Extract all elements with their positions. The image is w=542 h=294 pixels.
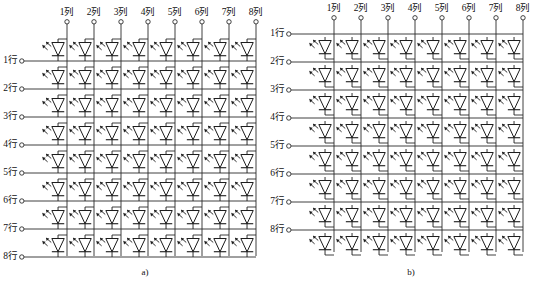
led-triangle-2-4 xyxy=(400,69,412,82)
led-triangle-2-2 xyxy=(79,71,91,84)
row-terminal-6[interactable] xyxy=(20,199,24,203)
row-terminal-2[interactable] xyxy=(20,87,24,91)
led-symbol-4-6 xyxy=(177,123,199,145)
column-terminal-8[interactable] xyxy=(254,20,258,24)
column-terminal-6[interactable] xyxy=(200,20,204,24)
row-terminal-5[interactable] xyxy=(20,171,24,175)
led-symbol-3-3 xyxy=(96,95,118,117)
led-triangle-6-2 xyxy=(79,183,91,196)
row-terminal-4[interactable] xyxy=(287,116,291,120)
row-terminal-1[interactable] xyxy=(287,32,291,36)
led-symbol-7-7 xyxy=(471,205,493,227)
led-symbol-1-5 xyxy=(417,37,439,59)
led-triangle-7-8 xyxy=(508,209,520,222)
column-terminal-3[interactable] xyxy=(386,16,390,20)
row-terminal-3[interactable] xyxy=(287,88,291,92)
led-symbol-3-5 xyxy=(417,93,439,115)
led-triangle-2-8 xyxy=(508,69,520,82)
column-terminal-1[interactable] xyxy=(65,20,69,24)
led-triangle-8-7 xyxy=(214,239,226,252)
led-symbol-2-2 xyxy=(69,67,91,89)
row-terminal-5[interactable] xyxy=(287,144,291,148)
led-symbol-4-8 xyxy=(231,123,253,145)
led-triangle-5-4 xyxy=(133,155,145,168)
led-triangle-8-6 xyxy=(454,237,466,250)
column-terminal-2[interactable] xyxy=(359,16,363,20)
column-terminal-3[interactable] xyxy=(119,20,123,24)
led-symbol-6-6 xyxy=(444,177,466,199)
column-terminal-4[interactable] xyxy=(413,16,417,20)
led-symbol-7-5 xyxy=(150,207,172,229)
led-symbol-4-2 xyxy=(69,123,91,145)
led-symbol-8-8 xyxy=(498,233,520,255)
led-triangle-6-8 xyxy=(241,183,253,196)
row-terminal-6[interactable] xyxy=(287,172,291,176)
led-triangle-3-8 xyxy=(508,97,520,110)
row-terminal-8[interactable] xyxy=(287,228,291,232)
row-terminal-7[interactable] xyxy=(20,227,24,231)
led-triangle-3-5 xyxy=(160,99,172,112)
row-terminal-3[interactable] xyxy=(20,115,24,119)
row-terminal-4[interactable] xyxy=(20,143,24,147)
led-triangle-7-5 xyxy=(160,211,172,224)
row-terminal-7[interactable] xyxy=(287,200,291,204)
led-triangle-2-5 xyxy=(427,69,439,82)
led-triangle-6-1 xyxy=(319,181,331,194)
led-triangle-1-2 xyxy=(346,41,358,54)
led-symbol-1-8 xyxy=(498,37,520,59)
row-label-5: 5行 xyxy=(0,168,18,178)
row-label-2: 2行 xyxy=(0,84,18,94)
led-symbol-7-3 xyxy=(96,207,118,229)
led-symbol-2-5 xyxy=(417,65,439,87)
led-symbol-4-3 xyxy=(363,121,385,143)
column-terminal-5[interactable] xyxy=(173,20,177,24)
led-triangle-7-1 xyxy=(52,211,64,224)
row-terminal-8[interactable] xyxy=(20,255,24,259)
row-label-1: 1行 xyxy=(257,29,285,39)
column-terminal-6[interactable] xyxy=(467,16,471,20)
led-symbol-7-8 xyxy=(231,207,253,229)
column-terminal-1[interactable] xyxy=(332,16,336,20)
column-terminal-8[interactable] xyxy=(521,16,525,20)
led-symbol-7-2 xyxy=(336,205,358,227)
led-symbol-5-2 xyxy=(69,151,91,173)
led-symbol-4-7 xyxy=(471,121,493,143)
led-triangle-4-2 xyxy=(346,125,358,138)
led-triangle-5-3 xyxy=(106,155,118,168)
led-triangle-5-5 xyxy=(160,155,172,168)
row-label-4: 4行 xyxy=(0,140,18,150)
led-symbol-2-3 xyxy=(363,65,385,87)
led-triangle-2-1 xyxy=(52,71,64,84)
led-symbol-5-5 xyxy=(150,151,172,173)
led-symbol-1-5 xyxy=(150,39,172,61)
column-label-3: 3列 xyxy=(381,4,396,14)
led-triangle-2-8 xyxy=(241,71,253,84)
led-symbol-2-4 xyxy=(390,65,412,87)
led-triangle-7-4 xyxy=(400,209,412,222)
led-triangle-1-8 xyxy=(508,41,520,54)
led-symbol-1-8 xyxy=(231,39,253,61)
column-label-8: 8列 xyxy=(249,8,264,18)
led-triangle-1-5 xyxy=(160,43,172,56)
row-terminal-1[interactable] xyxy=(20,59,24,63)
column-terminal-4[interactable] xyxy=(146,20,150,24)
led-symbol-7-5 xyxy=(417,205,439,227)
row-label-5: 5行 xyxy=(257,141,285,151)
row-terminal-2[interactable] xyxy=(287,60,291,64)
column-label-3: 3列 xyxy=(114,8,129,18)
led-triangle-2-6 xyxy=(187,71,199,84)
column-terminal-5[interactable] xyxy=(440,16,444,20)
led-triangle-8-3 xyxy=(373,237,385,250)
led-symbol-5-4 xyxy=(123,151,145,173)
column-terminal-7[interactable] xyxy=(494,16,498,20)
led-triangle-5-2 xyxy=(79,155,91,168)
led-symbol-3-7 xyxy=(204,95,226,117)
led-symbol-8-3 xyxy=(363,233,385,255)
column-terminal-7[interactable] xyxy=(227,20,231,24)
led-triangle-8-6 xyxy=(187,239,199,252)
led-symbol-6-7 xyxy=(204,179,226,201)
led-triangle-5-7 xyxy=(214,155,226,168)
led-triangle-5-5 xyxy=(427,153,439,166)
led-triangle-2-7 xyxy=(214,71,226,84)
column-terminal-2[interactable] xyxy=(92,20,96,24)
